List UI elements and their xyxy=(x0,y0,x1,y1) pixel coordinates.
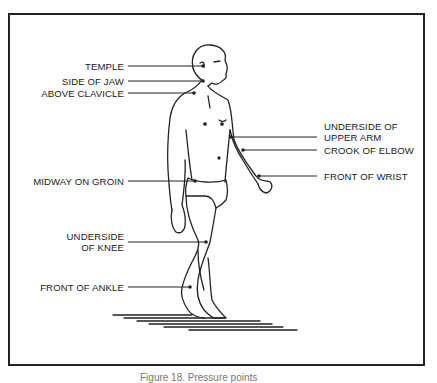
label-above-clavicle: ABOVE CLAVICLE xyxy=(41,88,124,99)
label-underside-of-upper-arm: UNDERSIDE OF UPPER ARM xyxy=(324,121,398,143)
label-underside-of-knee-line1: UNDERSIDE xyxy=(67,231,124,242)
label-underside-of-knee: UNDERSIDE OF KNEE xyxy=(67,231,124,253)
label-temple: TEMPLE xyxy=(85,61,124,72)
figure-caption: Figure 18. Pressure points xyxy=(140,372,257,383)
label-front-of-wrist: FRONT OF WRIST xyxy=(324,171,408,182)
label-underside-of-upper-arm-line1: UNDERSIDE OF xyxy=(324,121,398,132)
label-underside-of-knee-line2: OF KNEE xyxy=(67,242,124,253)
label-front-of-ankle: FRONT OF ANKLE xyxy=(40,282,124,293)
label-midway-on-groin: MIDWAY ON GROIN xyxy=(33,176,124,187)
label-underside-of-upper-arm-line2: UPPER ARM xyxy=(324,132,398,143)
label-side-of-jaw: SIDE OF JAW xyxy=(62,76,124,87)
label-crook-of-elbow: CROOK OF ELBOW xyxy=(324,145,414,156)
